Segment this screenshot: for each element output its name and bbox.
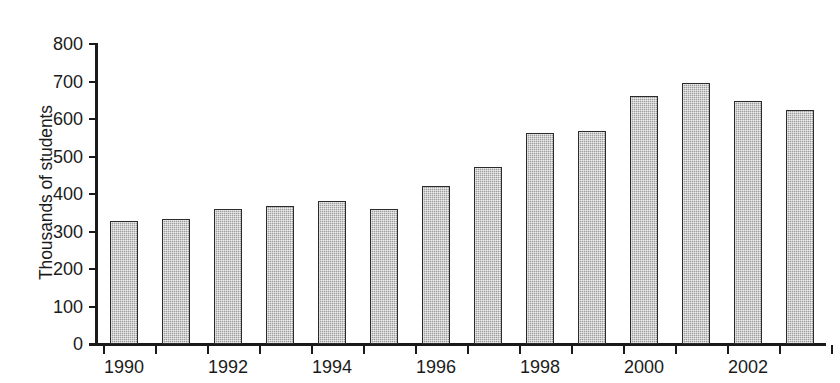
bar (266, 206, 294, 344)
bar-series (96, 44, 825, 344)
bar (474, 167, 502, 344)
plot-area (96, 44, 825, 344)
x-axis-tick (103, 345, 105, 354)
bar-chart: Thousands of students 800700600500400300… (0, 0, 840, 383)
y-axis-tick-label: 100 (33, 298, 83, 316)
bar (630, 96, 658, 344)
x-axis-tick (155, 345, 157, 354)
x-axis-tick (363, 345, 365, 354)
y-axis-tick-label: 200 (33, 260, 83, 278)
x-axis-tick (519, 345, 521, 354)
x-axis-tick-label: 2000 (599, 357, 689, 377)
x-axis-tick (259, 345, 261, 354)
x-axis-tick (675, 345, 677, 354)
x-axis-tick (623, 345, 625, 354)
y-axis-tick-label: 400 (33, 185, 83, 203)
bar (214, 209, 242, 344)
bar (734, 101, 762, 344)
bar (110, 221, 138, 344)
bar (682, 83, 710, 344)
x-axis-tick (467, 345, 469, 354)
x-axis-tick-label: 2002 (703, 357, 793, 377)
x-axis-tick (727, 345, 729, 354)
bar (422, 186, 450, 344)
bar (370, 209, 398, 344)
y-axis-tick-label: 600 (33, 110, 83, 128)
cropped-caption (8, 374, 568, 381)
x-axis-tick (831, 345, 833, 354)
bar (526, 133, 554, 345)
bar (162, 219, 190, 344)
y-axis-tick-label: 700 (33, 73, 83, 91)
x-axis-tick (207, 345, 209, 354)
y-axis-tick-label: 300 (33, 223, 83, 241)
x-axis-tick (779, 345, 781, 354)
x-axis-tick (415, 345, 417, 354)
y-axis-tick-label: 800 (33, 35, 83, 53)
bar (578, 131, 606, 344)
y-axis-tick-label: 500 (33, 148, 83, 166)
x-axis-tick (311, 345, 313, 354)
bar (318, 201, 346, 344)
x-axis-tick (571, 345, 573, 354)
y-axis-tick-label: 0 (33, 335, 83, 353)
bar (786, 110, 814, 344)
